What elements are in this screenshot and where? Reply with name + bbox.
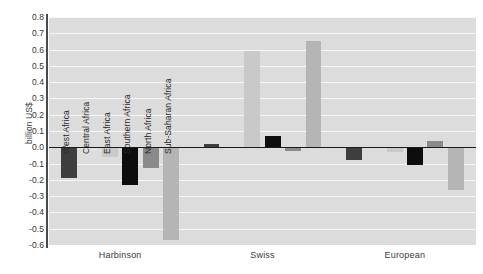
gridline bbox=[49, 229, 476, 230]
y-tick-label: -0.5 bbox=[10, 224, 44, 234]
y-tick-label: 0.5 bbox=[10, 61, 44, 71]
gridline bbox=[49, 50, 476, 51]
y-tick-label: -0.6 bbox=[10, 240, 44, 250]
zero-axis-line bbox=[49, 147, 476, 149]
y-tick-label: -0.2 bbox=[10, 175, 44, 185]
bar-chart: billion US$ 0.80.70.60.50.40.30.20.10.0-… bbox=[0, 0, 483, 274]
y-tick-label: 0.6 bbox=[10, 45, 44, 55]
x-group-label: European bbox=[385, 250, 426, 260]
y-axis-line bbox=[46, 14, 48, 248]
x-group-label: Harbinson bbox=[99, 250, 142, 260]
y-tick-label: 0.8 bbox=[10, 12, 44, 22]
gridline bbox=[49, 98, 476, 99]
bar bbox=[306, 41, 322, 148]
y-tick-label: 0.0 bbox=[10, 142, 44, 152]
y-tick-label: 0.1 bbox=[10, 126, 44, 136]
gridline bbox=[49, 82, 476, 83]
bar bbox=[163, 147, 179, 240]
gridline bbox=[49, 115, 476, 116]
gridline bbox=[49, 212, 476, 213]
series-label: Sub-Saharan Africa bbox=[163, 79, 173, 155]
bar bbox=[346, 147, 362, 160]
y-tick-label: 0.4 bbox=[10, 77, 44, 87]
bar bbox=[244, 51, 260, 147]
gridline bbox=[49, 33, 476, 34]
gridline bbox=[49, 196, 476, 197]
bar bbox=[448, 147, 464, 190]
y-tick-label: -0.1 bbox=[10, 159, 44, 169]
gridline bbox=[49, 180, 476, 181]
y-tick-label: -0.4 bbox=[10, 207, 44, 217]
x-group-label: Swiss bbox=[250, 250, 275, 260]
y-axis-tick-labels: 0.80.70.60.50.40.30.20.10.0-0.1-0.2-0.3-… bbox=[0, 0, 44, 274]
plot-area: West AfricaCentral AfricaEast AfricaSout… bbox=[49, 17, 476, 245]
gridline bbox=[49, 131, 476, 132]
y-tick-label: 0.2 bbox=[10, 110, 44, 120]
y-tick-label: -0.3 bbox=[10, 191, 44, 201]
y-tick-label: 0.7 bbox=[10, 28, 44, 38]
bar bbox=[407, 147, 423, 165]
series-label: Southern Africa bbox=[122, 95, 132, 155]
gridline bbox=[49, 66, 476, 67]
gridline bbox=[49, 17, 476, 18]
y-tick-label: 0.3 bbox=[10, 93, 44, 103]
